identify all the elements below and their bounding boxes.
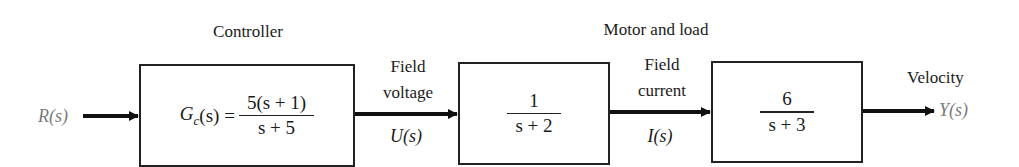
motor-fraction: 6 s + 3 — [760, 88, 813, 136]
output-signal-y: Y(s) — [939, 100, 968, 121]
field-voltage-label-line1: Field — [391, 57, 426, 77]
field-block: 1 s + 2 — [458, 62, 610, 165]
field-fraction: 1 s + 2 — [507, 90, 560, 138]
controller-numerator: 5(s + 1) — [239, 92, 314, 115]
field-current-label-line2: current — [638, 81, 686, 101]
controller-fraction: 5(s + 1) s + 5 — [239, 92, 314, 140]
field-numerator: 1 — [521, 90, 547, 113]
field-voltage-label-line2: voltage — [383, 83, 433, 103]
motor-and-load-group-label: Motor and load — [604, 20, 709, 40]
controller-block: Gc(s) = 5(s + 1) s + 5 — [139, 64, 355, 167]
controller-denominator: s + 5 — [250, 116, 303, 139]
controller-transfer-function: Gc(s) = 5(s + 1) s + 5 — [141, 66, 353, 165]
field-denominator: s + 2 — [507, 114, 560, 137]
motor-block: 6 s + 3 — [711, 61, 863, 163]
controller-group-label: Controller — [213, 22, 283, 42]
motor-denominator: s + 3 — [760, 113, 813, 136]
field-transfer-function: 1 s + 2 — [460, 64, 608, 163]
signal-i: I(s) — [648, 126, 673, 147]
velocity-label: Velocity — [907, 68, 964, 88]
controller-lhs: Gc — [180, 103, 200, 129]
input-signal-r: R(s) — [38, 106, 68, 127]
controller-lhs-arg: (s) = — [199, 105, 235, 127]
signal-u: U(s) — [390, 126, 422, 147]
field-current-label-line1: Field — [645, 55, 680, 75]
motor-transfer-function: 6 s + 3 — [713, 63, 861, 161]
motor-numerator: 6 — [774, 88, 800, 111]
